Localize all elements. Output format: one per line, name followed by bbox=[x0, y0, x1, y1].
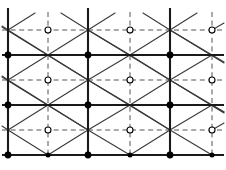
node-open bbox=[127, 27, 133, 33]
node-filled-small bbox=[210, 153, 215, 158]
node-filled-small bbox=[128, 153, 133, 158]
node-filled bbox=[85, 102, 92, 109]
node-open bbox=[209, 27, 215, 33]
node-open bbox=[209, 77, 215, 83]
node-filled bbox=[5, 152, 12, 159]
node-filled bbox=[167, 52, 174, 59]
node-open bbox=[45, 77, 51, 83]
node-open bbox=[209, 127, 215, 133]
node-filled bbox=[5, 102, 12, 109]
node-open bbox=[127, 127, 133, 133]
node-open bbox=[45, 27, 51, 33]
node-filled bbox=[5, 52, 12, 59]
node-open bbox=[45, 127, 51, 133]
node-filled bbox=[85, 152, 92, 159]
node-open bbox=[127, 77, 133, 83]
lattice-diagram bbox=[0, 0, 226, 170]
node-filled bbox=[167, 152, 174, 159]
node-filled bbox=[167, 102, 174, 109]
node-filled-small bbox=[46, 153, 51, 158]
node-filled bbox=[85, 52, 92, 59]
